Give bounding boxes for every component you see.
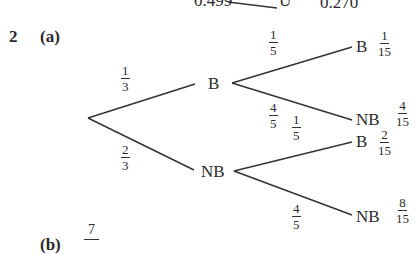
leaf-b-nb: NB <box>356 111 380 128</box>
prob-b-b: 1 5 <box>269 28 278 57</box>
part-a-label: (a) <box>40 28 60 45</box>
answer-b: 7 <box>84 223 99 241</box>
prob-root-b: 1 3 <box>121 64 130 93</box>
joint-nb-nb: 8 15 <box>396 196 409 225</box>
prob-root-nb: 2 3 <box>121 143 130 172</box>
question-number: 2 <box>9 28 18 45</box>
joint-b-b: 1 15 <box>378 29 391 58</box>
joint-b-nb: 4 15 <box>396 99 409 128</box>
joint-nb-b: 2 15 <box>378 128 391 157</box>
branch-root-nb <box>88 118 194 170</box>
prob-nb-nb: 4 5 <box>292 202 301 231</box>
part-b-label: (b) <box>40 236 61 253</box>
top-node-label: U' <box>279 0 294 9</box>
leaf-nb-nb: NB <box>356 208 380 225</box>
top-right-value: 0.270 <box>320 0 358 11</box>
branch-b-b <box>232 47 352 83</box>
leaf-b-b: B <box>356 38 367 55</box>
node-b: B <box>208 75 219 92</box>
branch-nb-b <box>234 142 352 171</box>
node-nb: NB <box>201 163 225 180</box>
top-left-value: 0.499 <box>194 0 232 9</box>
top-branch-line <box>228 2 277 8</box>
prob-b-nb: 4 5 <box>269 101 278 130</box>
prob-nb-b: 1 5 <box>292 113 301 142</box>
leaf-nb-b: B <box>356 133 367 150</box>
branch-root-b <box>88 84 195 118</box>
